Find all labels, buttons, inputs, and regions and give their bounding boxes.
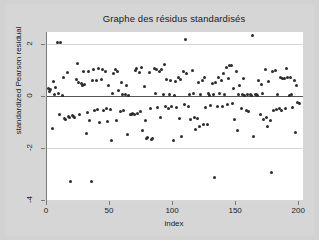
scatter-point [212, 93, 215, 96]
scatter-point [105, 107, 108, 110]
x-tick-label: 0 [31, 206, 61, 215]
y-tick-mark [41, 96, 45, 97]
scatter-point [192, 92, 195, 95]
scatter-point [109, 108, 112, 111]
y-tick-label: -2 [25, 137, 34, 157]
x-tick-mark [235, 201, 236, 205]
scatter-point [185, 72, 188, 75]
scatter-point [106, 120, 109, 123]
scatter-point [112, 72, 115, 75]
scatter-point [120, 81, 123, 84]
scatter-point [86, 111, 89, 114]
scatter-point [213, 176, 216, 179]
scatter-point [209, 104, 212, 107]
scatter-point [274, 69, 277, 72]
scatter-point [208, 94, 211, 97]
scatter-point [194, 128, 197, 131]
y-tick-label: 0 [25, 85, 34, 105]
scatter-point [82, 70, 85, 73]
scatter-point [122, 109, 125, 112]
scatter-point [257, 79, 260, 82]
scatter-point [233, 118, 236, 121]
scatter-point [124, 93, 127, 96]
scatter-point [90, 180, 93, 183]
figure-inner-panel: Graphe des résidus standardisés 20-2-4 s… [5, 4, 314, 236]
gridline [47, 44, 303, 45]
scatter-point [204, 106, 207, 109]
scatter-point [179, 78, 182, 81]
scatter-point [230, 64, 233, 67]
scatter-point [91, 79, 94, 82]
scatter-point [280, 109, 283, 112]
scatter-point [138, 71, 141, 74]
scatter-point [170, 105, 173, 108]
scatter-point [242, 77, 245, 80]
scatter-point [191, 69, 194, 72]
scatter-point [226, 103, 229, 106]
scatter-point [285, 67, 288, 70]
scatter-point [49, 88, 52, 91]
scatter-point [149, 107, 152, 110]
scatter-point [220, 79, 223, 82]
scatter-point [168, 93, 171, 96]
scatter-point [87, 70, 90, 73]
scatter-point [110, 139, 113, 142]
scatter-point [211, 82, 214, 85]
scatter-point [267, 80, 270, 83]
scatter-point [225, 66, 228, 69]
scatter-point [202, 123, 205, 126]
scatter-point [217, 76, 220, 79]
scatter-point [156, 106, 159, 109]
scatter-point [66, 71, 69, 74]
scatter-point [283, 77, 286, 80]
scatter-point [235, 70, 238, 73]
scatter-point [97, 67, 100, 70]
scatter-point [148, 71, 151, 74]
scatter-point [133, 113, 136, 116]
scatter-point [293, 79, 296, 82]
scatter-point [56, 41, 59, 44]
scatter-point [174, 80, 177, 83]
scatter-point [175, 106, 178, 109]
scatter-point [115, 119, 118, 122]
x-tick-mark [109, 201, 110, 205]
scatter-point [100, 78, 103, 81]
scatter-point [183, 103, 186, 106]
gridline [47, 148, 303, 149]
x-tick-label: 50 [94, 206, 124, 215]
scatter-point [95, 79, 98, 82]
scatter-point [78, 113, 81, 116]
scatter-point [178, 117, 181, 120]
plot-area [46, 32, 303, 201]
scatter-point [189, 118, 192, 121]
scatter-point [252, 135, 255, 138]
scatter-point [206, 123, 209, 126]
x-tick-mark [298, 201, 299, 205]
scatter-point [284, 107, 287, 110]
scatter-point [169, 79, 172, 82]
y-tick-label: 2 [25, 33, 34, 53]
scatter-point [238, 84, 241, 87]
scatter-point [196, 117, 199, 120]
scatter-point [198, 125, 201, 128]
y-tick-mark [41, 44, 45, 45]
scatter-point [218, 92, 221, 95]
scatter-point [231, 102, 234, 105]
scatter-point [69, 180, 72, 183]
scatter-point [141, 129, 144, 132]
scatter-point [62, 76, 65, 79]
scatter-point [173, 94, 176, 97]
scatter-point [92, 68, 95, 71]
scatter-point [143, 85, 146, 88]
x-tick-mark [172, 201, 173, 205]
scatter-point [96, 108, 99, 111]
scatter-point [165, 78, 168, 81]
scatter-point [51, 127, 54, 130]
x-tick-label: 200 [283, 206, 313, 215]
scatter-point [154, 92, 157, 95]
scatter-point [119, 110, 122, 113]
x-tick-mark [46, 201, 47, 205]
scatter-point [180, 135, 183, 138]
scatter-point [261, 92, 264, 95]
scatter-point [135, 67, 138, 70]
